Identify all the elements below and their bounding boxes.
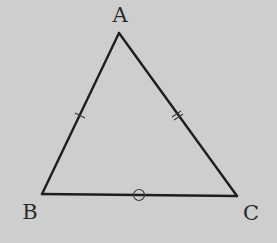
side-ab [42, 33, 119, 194]
vertex-label-b: B [22, 200, 37, 224]
vertex-label-c: C [243, 201, 259, 225]
side-bc [42, 194, 237, 196]
triangle-diagram: A B C [0, 0, 277, 243]
side-ac [119, 33, 237, 196]
diagram-svg: A B C [0, 0, 277, 243]
vertex-label-a: A [111, 3, 128, 27]
